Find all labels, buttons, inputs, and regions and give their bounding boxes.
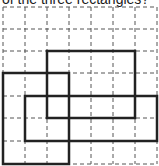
rectangles-diagram [0, 0, 159, 166]
rectangles-group [3, 51, 157, 164]
